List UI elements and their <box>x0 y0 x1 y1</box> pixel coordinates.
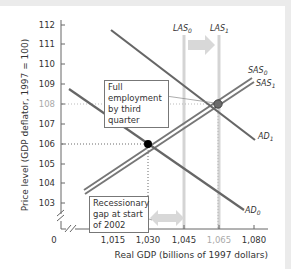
y-tick-105: 105 <box>39 159 55 169</box>
y-tick-111: 111 <box>39 39 55 49</box>
y-tick-103: 103 <box>39 198 55 208</box>
y-tick-106: 106 <box>39 139 55 149</box>
y-tick-107: 107 <box>39 119 55 129</box>
las0-label: LAS0 <box>173 24 192 34</box>
y-tick-112: 112 <box>39 20 55 30</box>
x-tick-1045: 1,045 <box>172 235 196 245</box>
y-ticks <box>61 25 65 203</box>
las-shift-arrow-icon <box>188 35 215 55</box>
annotation-full-employment: Full employment by third quarter <box>104 80 169 128</box>
origin-label: 0 <box>51 235 56 245</box>
x-axis-break-icon <box>65 225 76 232</box>
x-tick-1080: 1,080 <box>242 235 266 245</box>
ad0-label: AD0 <box>244 206 261 216</box>
annotation-gap-line3: of 2002 <box>93 220 145 231</box>
x-tick-1065: 1,065 <box>207 235 231 245</box>
y-tick-109: 109 <box>39 79 55 89</box>
y-tick-110: 110 <box>39 59 55 69</box>
equilibrium-point-end <box>214 100 222 108</box>
las1-label: LAS1 <box>210 24 229 34</box>
y-axis-title: Price level (GDP deflator, 1997 = 100) <box>20 39 30 212</box>
annotation-full-employment-line2: by third quarter <box>108 104 165 126</box>
sas0-label: SAS0 <box>248 66 268 76</box>
equilibrium-point-start <box>144 140 152 148</box>
annotation-full-employment-line1: Full employment <box>108 82 165 104</box>
x-tick-1030: 1,030 <box>136 235 160 245</box>
annotation-gap-line2: gap at start <box>93 209 145 220</box>
annotation-gap-line1: Recessionary <box>93 198 145 209</box>
sas1-label: SAS1 <box>256 79 275 89</box>
annotation-recessionary-gap: Recessionary gap at start of 2002 <box>89 196 149 233</box>
gap-double-arrow-icon <box>150 210 184 226</box>
x-tick-1015: 1,015 <box>101 235 125 245</box>
x-axis-title: Real GDP (billions of 1997 dollars) <box>115 250 268 260</box>
ad1-label: AD1 <box>257 132 273 142</box>
leader-full-employment <box>166 96 215 103</box>
y-tick-104: 104 <box>39 178 55 188</box>
y-tick-108: 108 <box>39 99 55 109</box>
